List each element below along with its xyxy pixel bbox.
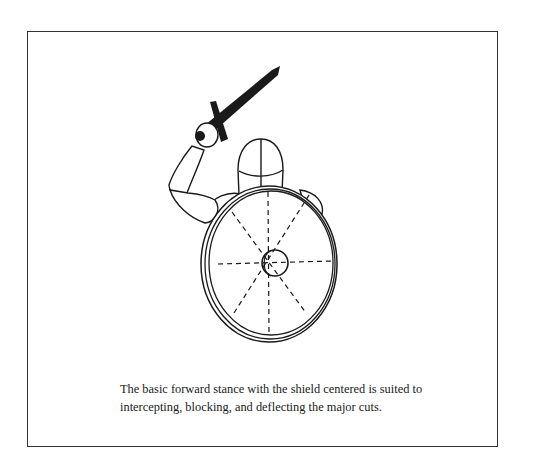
figure-caption: The basic forward stance with the shield… [120,380,460,416]
sword [195,66,280,147]
caption-line-2: intercepting, blocking, and deflecting t… [120,398,460,416]
sword-arm [169,146,218,223]
sword-pommel-icon [195,131,205,141]
round-shield [201,186,337,342]
caption-line-1: The basic forward stance with the shield… [120,380,460,398]
upper-arm [170,190,218,223]
forearm [169,146,204,195]
